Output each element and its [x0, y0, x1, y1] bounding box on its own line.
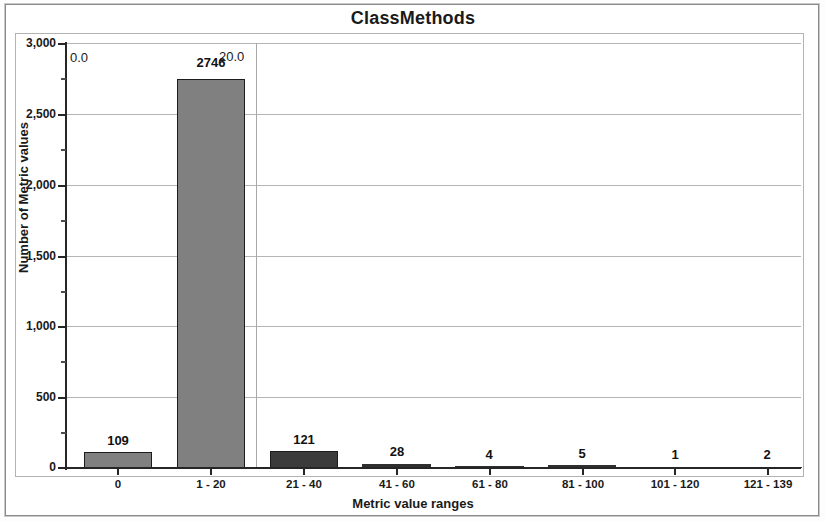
bar-value-101-120: 1 [671, 447, 678, 462]
x-tick-label-1-20: 1 - 20 [196, 478, 225, 490]
x-tick-label-121-139: 121 - 139 [744, 478, 793, 490]
y-tick-label-500: 500 [6, 390, 56, 404]
y-tick-label-2000: 2,000 [6, 178, 56, 192]
x-tick-label-21-40: 21 - 40 [286, 478, 322, 490]
bar-value-121-139: 2 [763, 447, 770, 462]
x-axis-line [65, 467, 801, 469]
x-tick-41-60 [396, 469, 398, 475]
bar-value-81-100: 5 [578, 446, 585, 461]
y-tick-minor-2750 [61, 78, 66, 80]
y-tick-label-3000: 3,000 [6, 36, 56, 50]
upper-threshold-line [256, 43, 257, 468]
x-tick-label-0: 0 [115, 478, 121, 490]
x-tick-label-81-100: 81 - 100 [562, 478, 604, 490]
y-tick-label-1000: 1,000 [6, 319, 56, 333]
y-tick-2500 [58, 114, 66, 116]
y-tick-label-2500: 2,500 [6, 107, 56, 121]
bar-0[interactable] [84, 452, 152, 468]
x-tick-label-41-60: 41 - 60 [379, 478, 415, 490]
x-tick-label-61-80: 61 - 80 [472, 478, 508, 490]
y-tick-1500 [58, 256, 66, 258]
bar-value-41-60: 28 [390, 444, 404, 459]
y-tick-2000 [58, 185, 66, 187]
y-tick-label-0: 0 [6, 460, 56, 474]
x-tick-61-80 [489, 469, 491, 475]
y-tick-minor-250 [61, 432, 66, 434]
gridline-3000 [66, 43, 801, 44]
bar-value-1-20: 2746 [197, 55, 226, 70]
chart-title: ClassMethods [0, 8, 826, 29]
lower-threshold-label: 0.0 [70, 50, 88, 65]
x-axis-title: Metric value ranges [0, 496, 826, 511]
x-tick-81-100 [582, 469, 584, 475]
bar-1-20[interactable] [177, 79, 245, 468]
chart-screenshot: ClassMethods 0.0 20.0 109 2746 121 28 4 … [0, 0, 826, 522]
x-tick-1-20 [210, 469, 212, 475]
y-tick-minor-1250 [61, 291, 66, 293]
x-tick-0 [117, 469, 119, 475]
y-axis-title: Number of Metric values [16, 83, 31, 313]
y-tick-minor-2250 [61, 149, 66, 151]
y-tick-label-1500: 1,500 [6, 249, 56, 263]
bar-21-40[interactable] [270, 451, 338, 468]
y-tick-1000 [58, 326, 66, 328]
y-tick-500 [58, 397, 66, 399]
y-tick-3000 [58, 43, 66, 45]
x-tick-101-120 [674, 469, 676, 475]
bar-value-21-40: 121 [293, 432, 315, 447]
bar-value-0: 109 [107, 433, 129, 448]
y-tick-minor-1750 [61, 220, 66, 222]
x-tick-121-139 [767, 469, 769, 475]
bar-value-61-80: 4 [485, 447, 492, 462]
x-tick-21-40 [303, 469, 305, 475]
y-tick-0 [58, 467, 66, 469]
x-tick-label-101-120: 101 - 120 [651, 478, 700, 490]
y-tick-minor-750 [61, 361, 66, 363]
